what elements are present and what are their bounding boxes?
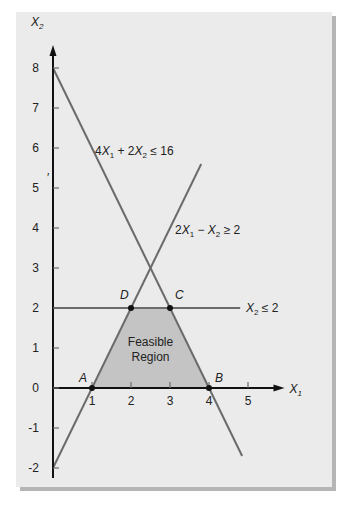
constraint-label-1: 4X1 + 2X2 ≤ 16 (95, 144, 174, 160)
y-tick-label: 4 (32, 221, 39, 235)
region-label-line2: Region (131, 350, 169, 364)
x-tick-label: 1 (89, 394, 96, 408)
y-axis-arrow-icon (50, 45, 57, 56)
y-tick-label: 2 (32, 301, 39, 315)
constraint-line-1 (53, 68, 242, 456)
y-tick-label: 6 (32, 141, 39, 155)
y-axis-label: X2 (30, 15, 44, 31)
corner-point-d (128, 305, 134, 311)
x-axis-arrow-icon (274, 385, 285, 392)
stray-mark: ′ (47, 171, 50, 185)
y-tick-label: -1 (28, 421, 39, 435)
corner-label-c: C (175, 288, 184, 302)
y-tick-label: 8 (32, 61, 39, 75)
x-tick-label: 5 (245, 394, 252, 408)
y-tick-label: 7 (32, 101, 39, 115)
x-axis-label: X1 (289, 382, 302, 398)
x-tick-label: 3 (167, 394, 174, 408)
y-tick-label: 0 (32, 381, 39, 395)
y-tick-label: -2 (28, 461, 39, 475)
corner-label-a: A (78, 371, 87, 385)
x-tick-label: 4 (206, 394, 213, 408)
linear-programming-chart: -2-101234567812345X1X2′4X1 + 2X2 ≤ 162X1… (0, 0, 347, 505)
constraint-label-2: 2X1 − X2 ≥ 2 (175, 223, 241, 239)
constraint-label-3: X2 ≤ 2 (245, 301, 279, 317)
y-tick-label: 3 (32, 261, 39, 275)
corner-point-a (89, 385, 95, 391)
corner-point-b (206, 385, 212, 391)
constraint-line-2 (53, 164, 201, 468)
region-label-line1: Feasible (128, 335, 174, 349)
x-tick-label: 2 (128, 394, 135, 408)
corner-point-c (167, 305, 173, 311)
corner-label-d: D (120, 288, 129, 302)
y-tick-label: 5 (32, 181, 39, 195)
y-tick-label: 1 (32, 341, 39, 355)
corner-label-b: B (215, 371, 223, 385)
